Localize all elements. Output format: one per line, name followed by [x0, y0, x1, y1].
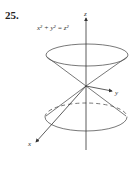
y-axis-label: y: [114, 89, 119, 97]
double-cone-figure: z y x: [0, 0, 135, 172]
z-axis-label: z: [83, 10, 87, 18]
x-axis: [36, 86, 86, 142]
top-ellipse: [46, 44, 128, 66]
x-axis-label: x: [27, 140, 32, 148]
